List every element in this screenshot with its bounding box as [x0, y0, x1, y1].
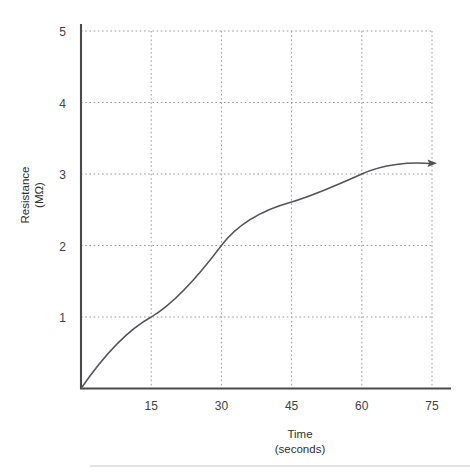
x-tick-label-45: 45 — [285, 399, 299, 413]
x-tick-label-75: 75 — [425, 399, 439, 413]
x-axis-title-line1: Time — [287, 428, 312, 440]
x-tick-label-15: 15 — [145, 399, 159, 413]
resistance-vs-time-line-chart: 5 4 3 2 1 15 30 45 60 75 Resistance (MΩ)… — [0, 0, 470, 475]
x-tick-label-60: 60 — [355, 399, 369, 413]
y-axis-title-line2: (MΩ) — [33, 182, 45, 208]
y-tick-label-5: 5 — [59, 25, 66, 39]
y-tick-label-3: 3 — [59, 168, 66, 182]
chart-figure: 5 4 3 2 1 15 30 45 60 75 Resistance (MΩ)… — [0, 0, 470, 475]
y-tick-label-2: 2 — [59, 240, 66, 254]
y-tick-label-1: 1 — [59, 311, 66, 325]
x-axis-title-line2: (seconds) — [275, 443, 326, 455]
chart-background — [0, 0, 470, 475]
y-tick-label-4: 4 — [59, 97, 66, 111]
x-tick-label-30: 30 — [215, 399, 229, 413]
y-axis-title-line1: Resistance — [19, 167, 31, 224]
